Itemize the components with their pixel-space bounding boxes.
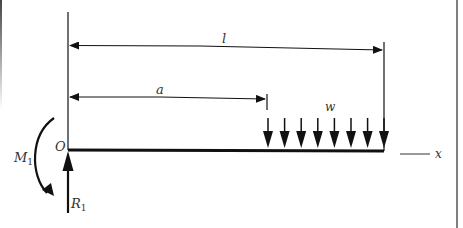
label-x-axis: x [435, 147, 442, 161]
label-w: w [325, 100, 336, 114]
dimension-a: a [70, 82, 267, 110]
moment-arrowhead-icon [42, 183, 54, 196]
label-reaction: R1 [70, 196, 87, 213]
distributed-load: w [263, 100, 389, 148]
x-axis-indicator: x [400, 147, 442, 161]
load-arrow-icon [263, 118, 273, 148]
reaction-arrowhead-icon [63, 151, 74, 171]
label-a: a [156, 82, 164, 97]
dimension-a-arrow-right-icon [160, 97, 265, 99]
load-arrow-icon [296, 118, 306, 148]
moment: M1 [13, 118, 54, 196]
load-arrow-icon [346, 118, 356, 148]
load-arrow-icon [329, 118, 339, 148]
left-border [0, 0, 2, 110]
dimension-l-arrow-right-icon [200, 46, 382, 50]
beam [68, 150, 384, 151]
label-l: l [222, 31, 226, 46]
moment-arc-icon [35, 118, 54, 193]
dimension-l-arrow-left-icon [70, 46, 200, 47]
load-arrow-icon [313, 118, 323, 148]
label-moment: M1 [13, 150, 33, 167]
dimension-l: l [70, 31, 382, 50]
load-arrow-icon [363, 118, 373, 148]
label-origin: O [55, 139, 66, 154]
load-arrow-icon [379, 118, 389, 148]
beam-diagram: l a w [0, 0, 463, 228]
load-arrow-icon [280, 118, 290, 148]
reaction-force: R1 [63, 151, 87, 213]
